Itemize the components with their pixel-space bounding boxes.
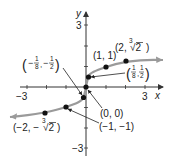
svg-text:(2,: (2, [115,42,127,53]
svg-text:): ) [146,42,149,53]
point-eighth [86,74,91,79]
svg-text:8: 8 [132,72,136,79]
svg-text:,: , [137,69,139,78]
pointer-eighth [91,73,125,77]
svg-text:8: 8 [35,63,39,70]
y-axis-label: y [75,8,82,19]
svg-text:2: 2 [140,72,144,79]
y-tick-neg3: −3 [72,143,84,154]
svg-text:(−2, −: (−2, − [13,122,39,133]
point-two [123,58,128,63]
label-one: (1, 1) [93,50,116,61]
label-eighth: ( 1 8 , 1 2 ) [126,64,150,82]
label-origin: (0, 0) [100,108,123,119]
svg-text:): ) [55,57,60,73]
svg-text:1: 1 [35,55,39,62]
point-neg-eighth [81,95,86,100]
label-two: (2, 3 √2 ) [115,37,149,53]
x-tick-neg3: −3 [16,91,28,102]
x-axis-label: x [154,90,161,101]
y-tick-3: 3 [76,20,82,31]
svg-text:2: 2 [50,63,54,70]
point-origin [83,84,88,89]
svg-text:√2: √2 [43,122,54,133]
x-tick-3: 3 [142,91,148,102]
svg-text:(: ( [126,66,131,82]
pointer-neg-eighth [63,68,82,95]
svg-text:−: − [28,58,33,68]
svg-text:√2: √2 [130,42,141,53]
point-neg2 [42,110,47,115]
svg-text:1: 1 [140,64,144,71]
cube-root-graph: y x 3 −3 −3 3 (1, 1) (2, 3 √2 ) ( 1 8 , … [0,0,169,167]
pointer-origin [88,90,102,108]
label-neg2: (−2, − 3 √2 ) [13,117,60,133]
svg-text:1: 1 [132,64,136,71]
pointer-neg1 [68,109,99,123]
point-one [103,64,108,69]
svg-text:): ) [145,66,150,82]
label-neg-eighth: ( − 1 8 , − 1 2 ) [22,55,60,73]
curve-arrow-left [10,113,17,119]
svg-text:,: , [40,60,42,69]
svg-text:(: ( [22,57,27,73]
point-neg1 [63,104,68,109]
svg-text:): ) [57,122,60,133]
svg-text:1: 1 [50,55,54,62]
svg-text:−: − [43,58,48,68]
label-neg1: (−1, −1) [99,121,134,132]
curve-arrow-right [156,57,163,63]
